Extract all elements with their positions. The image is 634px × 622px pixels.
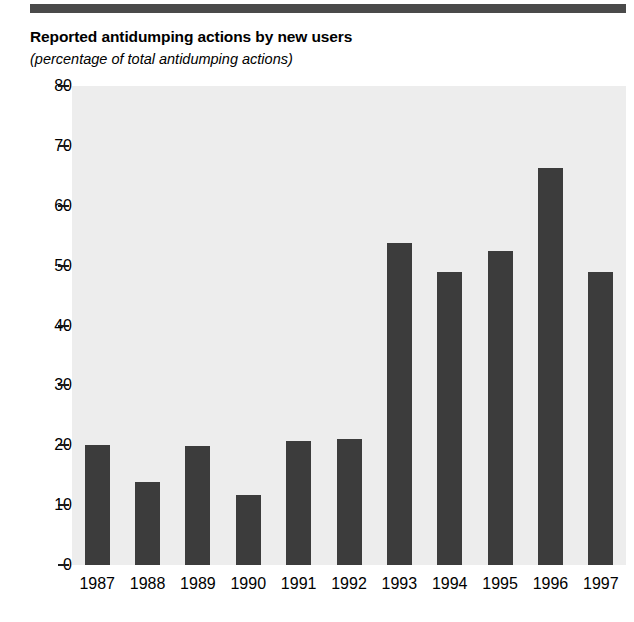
bar-rect: [185, 446, 210, 565]
bar-rect: [286, 441, 311, 565]
bar-rect: [236, 495, 261, 565]
bar-1992: [337, 86, 362, 565]
y-axis-tick-mark: [58, 145, 69, 147]
y-axis-tick-mark: [58, 265, 69, 267]
bar-1993: [387, 86, 412, 565]
x-axis-tick-label: 1994: [432, 575, 468, 593]
bar-rect: [488, 251, 513, 565]
x-axis-tick-label: 1996: [533, 575, 569, 593]
y-axis-tick-mark: [58, 564, 69, 566]
x-axis-tick-label: 1987: [79, 575, 115, 593]
bar-1990: [236, 86, 261, 565]
bar-1991: [286, 86, 311, 565]
bar-rect: [588, 272, 613, 565]
x-axis-tick-label: 1995: [482, 575, 518, 593]
x-axis-tick-label: 1997: [583, 575, 619, 593]
y-axis-tick-mark: [58, 384, 69, 386]
x-axis-tick-label: 1993: [382, 575, 418, 593]
y-axis-tick-mark: [58, 444, 69, 446]
y-axis-tick-mark: [58, 504, 69, 506]
x-axis-tick-label: 1992: [331, 575, 367, 593]
x-axis-tick-label: 1991: [281, 575, 317, 593]
bar-1987: [85, 86, 110, 565]
bar-rect: [437, 272, 462, 565]
y-axis-tick-mark: [58, 325, 69, 327]
bar-1997: [588, 86, 613, 565]
bar-1988: [135, 86, 160, 565]
bar-1989: [185, 86, 210, 565]
bar-rect: [135, 482, 160, 565]
bar-rect: [538, 168, 563, 565]
bar-rect: [337, 439, 362, 565]
bar-rect: [387, 243, 412, 565]
x-axis-tick-label: 1989: [180, 575, 216, 593]
bar-1994: [437, 86, 462, 565]
x-axis-tick-label: 1988: [130, 575, 166, 593]
y-axis-tick-mark: [58, 205, 69, 207]
bar-1996: [538, 86, 563, 565]
bar-rect: [85, 445, 110, 565]
bar-1995: [488, 86, 513, 565]
y-axis-tick-mark: [58, 85, 69, 87]
chart-figure: 01020304050607080 1987198819891990199119…: [0, 0, 634, 622]
x-axis-tick-label: 1990: [230, 575, 266, 593]
y-axis: 01020304050607080: [0, 0, 72, 622]
